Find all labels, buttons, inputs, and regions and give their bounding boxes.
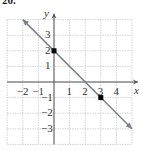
y-tick-label: −2 (41, 107, 53, 118)
x-axis-label: x (134, 85, 139, 96)
x-tick-label: 4 (113, 86, 119, 97)
y-tick-label: −1 (41, 92, 53, 103)
x-tick-label: −2 (17, 86, 29, 97)
axes (7, 14, 138, 145)
y-tick-label: −3 (41, 123, 53, 134)
line-series (23, 20, 132, 129)
x-tick-label: 1 (67, 86, 73, 97)
y-tick-label: 2 (45, 45, 51, 56)
x-tick-label: 2 (82, 86, 88, 97)
y-axis-label: y (44, 8, 49, 19)
coordinate-plane (0, 0, 143, 151)
y-tick-label: 1 (45, 60, 51, 71)
x-tick-label: 3 (98, 86, 104, 97)
y-tick-label: 3 (45, 29, 51, 40)
